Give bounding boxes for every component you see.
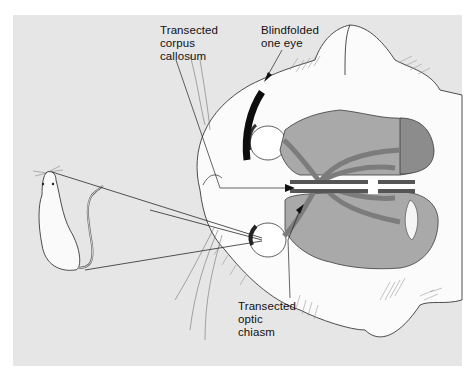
label-line: Transected	[238, 300, 296, 313]
label-line: optic	[238, 313, 296, 326]
label-line: Transected	[160, 24, 218, 37]
label-blindfolded-one-eye: Blindfolded one eye	[261, 24, 319, 50]
label-transected-optic-chiasm: Transected optic chiasm	[238, 300, 296, 339]
brain	[280, 110, 438, 269]
label-line: chiasm	[238, 326, 296, 339]
label-line: Blindfolded	[261, 24, 319, 37]
label-line: one eye	[261, 37, 319, 50]
label-line: callosum	[160, 50, 218, 63]
rat	[33, 166, 103, 270]
label-line: corpus	[160, 37, 218, 50]
label-transected-corpus-callosum: Transected corpus callosum	[160, 24, 218, 63]
diagram-canvas	[0, 0, 470, 378]
